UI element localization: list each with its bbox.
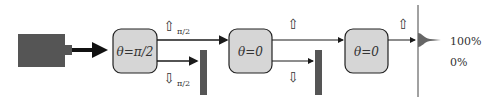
box-1-label: θ=π/2 (117, 45, 154, 59)
beam-splitter-1: θ=π/2 (113, 29, 157, 73)
intensity-peak (418, 33, 441, 47)
laser-source (18, 34, 72, 67)
detector-1 (200, 50, 207, 95)
up-arrow-icon: ⇧ (163, 18, 175, 34)
beam-splitter-2: θ=0 (229, 29, 272, 73)
down-arrow-icon: ⇩ (287, 69, 299, 85)
output-high-label: 100% (450, 35, 481, 48)
diagram-canvas: θ=π/2 ⇧ π/2 ⇩ π/2 θ=0 ⇧ ⇩ θ=0 ⇧ 100% 0% (0, 0, 493, 99)
beam-splitter-3: θ=0 (345, 29, 388, 73)
box-3-label: θ=0 (354, 45, 379, 59)
down-arrow-icon: ⇩ (163, 70, 175, 86)
down-1-subscript: π/2 (177, 79, 190, 88)
output-low-label: 0% (450, 56, 467, 69)
detector-2 (315, 50, 322, 95)
box-2-label: θ=0 (238, 45, 263, 59)
up-1-subscript: π/2 (177, 27, 190, 36)
up-arrow-icon: ⇧ (397, 16, 409, 32)
up-arrow-icon: ⇧ (287, 16, 299, 32)
